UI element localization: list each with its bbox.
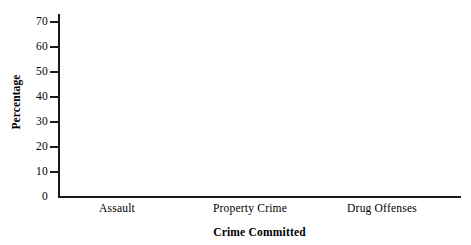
x-axis-line [58,196,461,198]
y-tick-label-60: 60 [22,41,48,53]
y-tick-30: 30 [14,116,48,128]
y-tick-mark-50 [50,71,58,73]
y-tick-50: 50 [14,66,48,78]
y-tick-mark-10 [50,171,58,173]
x-category-label-assault: Assault [71,202,163,214]
y-tick-10: 10 [14,166,48,178]
y-tick-60: 60 [14,41,48,53]
y-tick-label-10: 10 [22,166,48,178]
y-tick-label-40: 40 [22,91,48,103]
y-tick-70: 70 [14,16,48,28]
y-tick-label-70: 70 [22,16,48,28]
y-tick-mark-30 [50,121,58,123]
bar-chart: Percentage 70 60 50 40 30 20 10 0 Assaul… [0,0,471,245]
y-tick-label-20: 20 [22,141,48,153]
y-tick-0: 0 [14,191,48,203]
y-tick-mark-70 [50,21,58,23]
x-category-label-drug-offenses: Drug Offenses [334,202,430,214]
y-tick-mark-60 [50,46,58,48]
y-axis-line [58,14,60,198]
x-category-label-property-crime: Property Crime [200,202,300,214]
y-tick-label-0: 0 [22,191,48,203]
y-tick-mark-20 [50,146,58,148]
y-tick-label-50: 50 [22,66,48,78]
y-tick-40: 40 [14,91,48,103]
x-axis-title: Crime Committed [58,226,461,238]
y-tick-mark-40 [50,96,58,98]
y-tick-20: 20 [14,141,48,153]
y-tick-label-30: 30 [22,116,48,128]
